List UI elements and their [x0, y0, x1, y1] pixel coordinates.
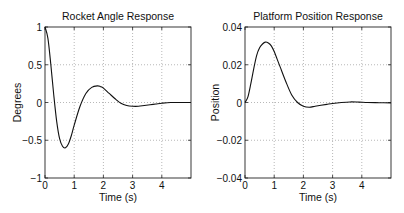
- y-tick-label: 0.04: [223, 22, 243, 33]
- chart-title: Platform Position Response: [253, 10, 383, 22]
- x-tick-label: 0: [242, 180, 248, 191]
- chart-canvas: 01234−1−0.500.51Rocket Angle ResponseTim…: [0, 0, 404, 213]
- y-tick-label: −1: [31, 173, 43, 184]
- x-tick-label: 1: [71, 180, 77, 191]
- x-tick-label: 4: [159, 180, 165, 191]
- chart-title: Rocket Angle Response: [62, 10, 174, 22]
- y-tick-label: 0: [236, 98, 242, 109]
- x-tick-label: 4: [359, 180, 365, 191]
- y-tick-label: 0: [36, 98, 42, 109]
- x-tick-label: 0: [42, 180, 48, 191]
- y-tick-label: −0.02: [217, 135, 243, 146]
- x-tick-label: 3: [130, 180, 136, 191]
- x-axis-label: Time (s): [299, 191, 337, 203]
- platform-position-plot: 01234−0.04−0.0200.020.04Platform Positio…: [209, 10, 391, 203]
- y-tick-label: 1: [36, 22, 42, 33]
- x-tick-label: 2: [101, 180, 107, 191]
- y-tick-label: −0.5: [22, 135, 42, 146]
- rocket-angle-plot: 01234−1−0.500.51Rocket Angle ResponseTim…: [11, 10, 191, 203]
- x-tick-label: 1: [271, 180, 277, 191]
- y-axis-label: Degrees: [11, 83, 23, 123]
- y-axis-label: Position: [209, 84, 221, 122]
- x-tick-label: 3: [330, 180, 336, 191]
- y-tick-label: 0.02: [223, 60, 243, 71]
- y-tick-label: 0.5: [28, 60, 42, 71]
- y-tick-label: −0.04: [217, 173, 243, 184]
- x-tick-label: 2: [301, 180, 307, 191]
- x-axis-label: Time (s): [99, 191, 137, 203]
